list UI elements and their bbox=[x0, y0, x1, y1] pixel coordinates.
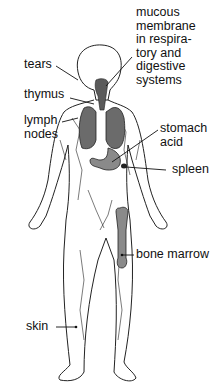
tears-pointer bbox=[56, 66, 78, 80]
label-thymus: thymus bbox=[24, 88, 64, 102]
label-lymph-nodes: lymph nodes bbox=[24, 114, 58, 141]
right-lung bbox=[106, 107, 125, 148]
mucous-membrane bbox=[95, 79, 108, 110]
label-bone-marrow: bone marrow bbox=[136, 248, 209, 262]
mucous-pointer bbox=[106, 57, 132, 86]
femur-bone bbox=[116, 207, 128, 268]
label-mucous: mucous membrane in respira- tory and dig… bbox=[136, 6, 196, 87]
lymph-pointer bbox=[62, 118, 78, 122]
label-spleen: spleen bbox=[172, 163, 209, 177]
label-skin: skin bbox=[26, 320, 48, 334]
torso-outline bbox=[29, 100, 167, 381]
label-tears: tears bbox=[24, 58, 52, 72]
label-stomach-acid: stomach acid bbox=[160, 122, 207, 149]
left-lung bbox=[79, 107, 96, 149]
spleen bbox=[121, 164, 127, 169]
